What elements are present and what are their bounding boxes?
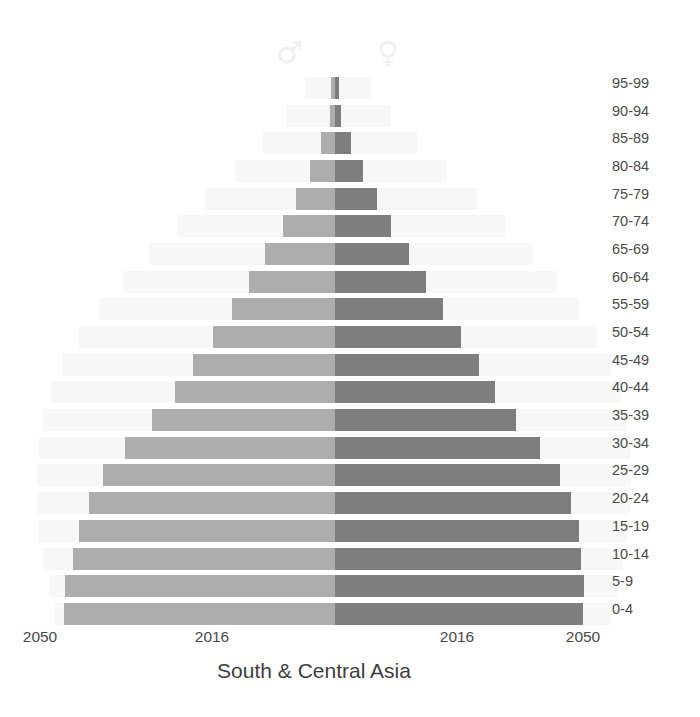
bar-male-2016: [79, 520, 335, 542]
age-group-label: 90-94: [612, 103, 692, 119]
male-symbol-icon: ♂: [276, 38, 303, 68]
pyramid-row: 0-4: [0, 600, 700, 628]
pyramid-row: 40-44: [0, 379, 700, 407]
pyramid-row: 10-14: [0, 545, 700, 573]
bar-female-2016: [335, 132, 351, 154]
bar-male-2050: [287, 105, 335, 127]
pyramid-row: 65-69: [0, 240, 700, 268]
pyramid-row: 80-84: [0, 157, 700, 185]
bar-female-2016: [335, 520, 579, 542]
bar-male-2016: [125, 437, 335, 459]
age-group-label: 95-99: [612, 75, 692, 91]
pyramid-row: 20-24: [0, 489, 700, 517]
bar-female-2050: [335, 105, 391, 127]
age-group-label: 25-29: [612, 462, 692, 478]
bar-female-2016: [335, 354, 479, 376]
bar-female-2016: [335, 77, 339, 99]
bar-male-2016: [321, 132, 335, 154]
bar-male-2016: [73, 548, 335, 570]
age-group-label: 5-9: [612, 573, 692, 589]
plot-area: 95-9990-9485-8980-8475-7970-7465-6960-64…: [0, 74, 700, 628]
pyramid-row: 90-94: [0, 102, 700, 130]
bar-female-2016: [335, 548, 581, 570]
age-group-label: 10-14: [612, 546, 692, 562]
bar-female-2016: [335, 492, 571, 514]
bar-female-2016: [335, 326, 461, 348]
bar-female-2016: [335, 575, 584, 597]
female-symbol-icon: ♀: [377, 38, 399, 68]
bar-male-2016: [89, 492, 335, 514]
pyramid-row: 70-74: [0, 212, 700, 240]
age-group-label: 30-34: [612, 435, 692, 451]
pyramid-row: 60-64: [0, 268, 700, 296]
pyramid-row: 50-54: [0, 323, 700, 351]
bar-male-2016: [152, 409, 335, 431]
bar-male-2016: [213, 326, 335, 348]
chart-title: South & Central Asia: [0, 659, 628, 683]
pyramid-row: 45-49: [0, 351, 700, 379]
age-group-label: 35-39: [612, 407, 692, 423]
age-group-label: 70-74: [612, 213, 692, 229]
bar-male-2016: [103, 464, 335, 486]
age-group-label: 65-69: [612, 241, 692, 257]
bar-male-2016: [265, 243, 335, 265]
bar-male-2016: [65, 575, 335, 597]
bar-female-2016: [335, 188, 377, 210]
pyramid-row: 55-59: [0, 296, 700, 324]
x-axis-tick-label: 2016: [440, 628, 474, 646]
bar-male-2016: [249, 271, 335, 293]
population-pyramid-chart: ♂ ♀ 95-9990-9485-8980-8475-7970-7465-696…: [0, 0, 700, 717]
age-group-label: 0-4: [612, 601, 692, 617]
age-group-label: 80-84: [612, 158, 692, 174]
bar-male-2016: [175, 381, 335, 403]
age-group-label: 50-54: [612, 324, 692, 340]
bar-male-2016: [232, 298, 335, 320]
x-axis-tick-label: 2016: [195, 628, 229, 646]
bar-female-2016: [335, 437, 540, 459]
age-group-label: 15-19: [612, 518, 692, 534]
x-axis-tick-label: 2050: [23, 628, 57, 646]
bar-female-2016: [335, 105, 341, 127]
age-group-label: 55-59: [612, 296, 692, 312]
age-group-label: 60-64: [612, 269, 692, 285]
bar-female-2016: [335, 298, 443, 320]
bar-male-2016: [283, 215, 335, 237]
pyramid-row: 95-99: [0, 74, 700, 102]
gender-legend: ♂ ♀: [0, 34, 700, 76]
x-axis-tick-label: 2050: [566, 628, 600, 646]
pyramid-row: 85-89: [0, 129, 700, 157]
age-group-label: 40-44: [612, 379, 692, 395]
pyramid-row: 15-19: [0, 517, 700, 545]
x-axis: 2050201620162050: [0, 628, 700, 654]
bar-female-2016: [335, 215, 391, 237]
age-group-label: 45-49: [612, 352, 692, 368]
bar-female-2016: [335, 381, 495, 403]
pyramid-row: 5-9: [0, 572, 700, 600]
pyramid-row: 30-34: [0, 434, 700, 462]
bar-male-2016: [193, 354, 335, 376]
bar-female-2016: [335, 409, 516, 431]
bar-female-2016: [335, 464, 560, 486]
age-group-label: 75-79: [612, 186, 692, 202]
bar-female-2016: [335, 243, 409, 265]
pyramid-row: 25-29: [0, 462, 700, 490]
age-group-label: 20-24: [612, 490, 692, 506]
bar-female-2016: [335, 160, 363, 182]
bar-female-2016: [335, 603, 583, 625]
pyramid-row: 75-79: [0, 185, 700, 213]
pyramid-row: 35-39: [0, 406, 700, 434]
bar-male-2016: [296, 188, 335, 210]
age-group-label: 85-89: [612, 130, 692, 146]
bar-female-2016: [335, 271, 426, 293]
bar-female-2050: [335, 77, 371, 99]
bar-male-2016: [310, 160, 335, 182]
bar-male-2016: [64, 603, 335, 625]
